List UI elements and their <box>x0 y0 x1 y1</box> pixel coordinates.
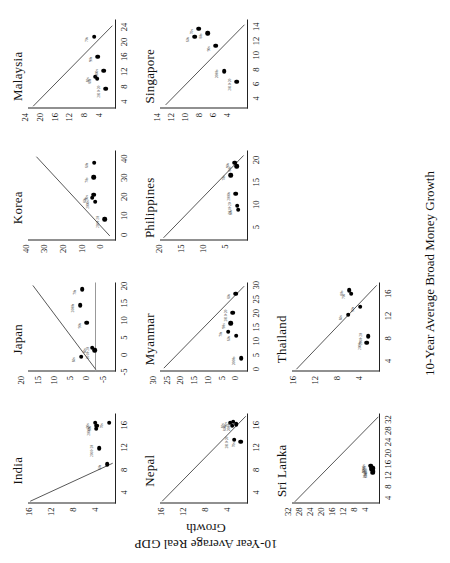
y-tick-label: 4 <box>222 507 232 511</box>
panel-philippines: Philippines5101520510152060s70s80s90s200… <box>140 145 270 271</box>
y-tick-label: 15 <box>189 376 199 385</box>
x-tick-label: 8 <box>380 336 393 340</box>
y-tick-label: 8 <box>349 507 359 511</box>
x-tick-label: 16 <box>248 420 261 429</box>
plot-area: 4812162024481216202460s70s80s90s2000s201… <box>28 19 116 109</box>
panel-grid: India48121648121660s70s80s90s2000s2010-2… <box>8 13 402 533</box>
x-tick-label: 6 <box>248 81 261 85</box>
y-tick-label: 4 <box>354 376 364 380</box>
y-tick-label: 0 <box>230 376 240 380</box>
data-point-label: 60s <box>339 315 343 320</box>
y-tick-label: 12 <box>310 376 320 385</box>
y-tick-label: 30 <box>39 244 49 253</box>
plot-area: 48121648121660s70s80s90s2000s2010-20 <box>28 414 116 504</box>
figure-canvas: India48121648121660s70s80s90s2000s2010-2… <box>0 0 450 563</box>
trend-line <box>28 19 116 109</box>
y-tick-label: 20 <box>175 376 185 385</box>
data-point-label: 2010-20 <box>228 202 232 214</box>
data-point-label: 70s <box>222 175 226 180</box>
y-tick-label: 4 <box>90 507 100 511</box>
panel-malaysia: Malaysia4812162024481216202460s70s80s90s… <box>8 13 138 139</box>
y-tick-label: 4 <box>94 113 104 117</box>
x-tick-label: 16 <box>116 52 129 61</box>
data-point-label: 2010-20 <box>90 445 94 457</box>
y-tick-label: 4 <box>360 507 370 511</box>
x-tick-label: 12 <box>116 67 129 76</box>
x-tick-label: 40 <box>116 154 129 163</box>
x-tick-label: 5 <box>248 353 261 357</box>
trend-line <box>28 151 116 241</box>
data-point-label: 80s <box>199 33 203 38</box>
x-tick-label: 10 <box>116 316 129 325</box>
x-tick-label: 4 <box>116 99 129 103</box>
data-point-label: 70s <box>190 29 194 34</box>
x-tick-label: 0 <box>116 232 129 236</box>
x-tick-label: 20 <box>248 155 261 164</box>
y-tick-label: 16 <box>156 507 166 516</box>
x-tick-label: 10 <box>248 51 261 60</box>
data-point-label: 2000s <box>215 69 219 78</box>
data-point-label: 2000s <box>227 422 231 431</box>
data-point-label: 2000s <box>227 192 231 201</box>
panel-japan: Japan-505101520-50510152060s70s80s90s200… <box>8 276 138 402</box>
trend-line <box>292 414 380 504</box>
x-tick-label: 20 <box>380 448 393 457</box>
x-tick-label: 20 <box>116 37 129 46</box>
data-point-label: 90s <box>222 323 226 328</box>
data-point-label: 80s <box>227 294 231 299</box>
x-tick-label: 12 <box>380 471 393 480</box>
y-tick-label: 5 <box>220 244 230 248</box>
data-point-label: 70s <box>219 331 223 336</box>
data-point-label: 2010-20 <box>363 466 367 478</box>
data-point-label: 2010-20 <box>228 78 232 90</box>
panel-thailand: Thailand48121648121660s70s80s90s2000s201… <box>272 276 402 402</box>
y-tick-label: 10 <box>180 113 190 122</box>
y-tick-label: 28 <box>294 507 304 516</box>
y-tick-label: 20 <box>16 376 26 385</box>
y-tick-label: 0 <box>81 376 91 380</box>
x-tick-label: 12 <box>248 443 261 452</box>
trend-line <box>292 282 380 372</box>
plot-area: 05101520253005101520253060s70s80s90s2000… <box>160 282 248 372</box>
y-tick-label: 10 <box>49 376 59 385</box>
data-point-label: 60s <box>186 37 190 42</box>
y-tick-label: 20 <box>316 507 326 516</box>
y-tick-label: 12 <box>178 507 188 516</box>
x-tick-label: 14 <box>248 22 261 31</box>
y-tick-label: 8 <box>68 507 78 511</box>
plot-area: 46810121446810121460s70s80s90s2000s2010-… <box>160 19 248 109</box>
x-tick-label: 12 <box>248 36 261 45</box>
y-tick-label: 5 <box>65 376 75 380</box>
data-point-label: 2000s <box>95 69 99 78</box>
x-tick-label: 10 <box>116 211 129 220</box>
y-tick-label: 12 <box>338 507 348 516</box>
x-tick-label: 16 <box>380 289 393 298</box>
x-tick-label: 30 <box>248 281 261 290</box>
panel-myanmar: Myanmar05101520253005101520253060s70s80s… <box>140 276 270 402</box>
data-point-label: 2010-20 <box>96 216 100 228</box>
x-tick-label: 32 <box>380 415 393 424</box>
plot-area: 48121648121660s70s80s90s2000s2010-20 <box>160 414 248 504</box>
x-tick-label: 0 <box>248 367 261 371</box>
y-tick-label: 6 <box>208 113 218 117</box>
data-point-label: 2010-20 <box>359 333 363 345</box>
y-tick-label: -5 <box>98 376 108 383</box>
data-point-label: 90s <box>78 323 82 328</box>
y-tick-label: 0 <box>95 244 105 248</box>
data-point-label: 90s <box>351 306 355 311</box>
y-tick-label: 4 <box>222 113 232 117</box>
y-tick-label: 15 <box>33 376 43 385</box>
x-tick-label: 15 <box>248 178 261 187</box>
y-axis-title: 10-Year Average Real GDP Growth <box>126 519 286 551</box>
x-tick-label: -5 <box>116 368 129 375</box>
data-point-label: 80s <box>340 290 344 295</box>
y-tick-label: 16 <box>24 507 34 516</box>
x-tick-label: 8 <box>248 467 261 471</box>
y-tick-label: 16 <box>288 376 298 385</box>
data-point-label: 2010-20 <box>97 85 101 97</box>
x-tick-label: 10 <box>248 200 261 209</box>
data-point-label: 2010-20 <box>225 436 229 448</box>
panel-nepal: Nepal48121648121660s70s80s90s2000s2010-2… <box>140 408 270 534</box>
y-tick-label: 25 <box>162 376 172 385</box>
x-tick-label: 8 <box>116 84 129 88</box>
